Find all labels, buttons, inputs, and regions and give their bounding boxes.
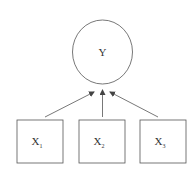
path-diagram: Y X1 X2 X3 [0, 0, 195, 173]
node-y: Y [73, 20, 133, 84]
svg-text:X3: X3 [155, 135, 166, 149]
square-shape [17, 120, 63, 163]
node-x1-label: X [32, 135, 40, 147]
node-x3-label: X [155, 135, 163, 147]
node-x1-subscript: 1 [39, 143, 42, 149]
node-x3: X3 [140, 120, 186, 163]
edges [45, 90, 158, 117]
node-x2-subscript: 2 [101, 143, 104, 149]
svg-text:X2: X2 [94, 135, 105, 149]
node-x2-label: X [94, 135, 102, 147]
square-shape [140, 120, 186, 163]
arrow-x3-to-y [110, 92, 158, 117]
arrow-x1-to-y [45, 92, 94, 117]
node-x1: X1 [17, 120, 63, 163]
node-x3-subscript: 3 [162, 143, 165, 149]
square-shape [79, 120, 125, 163]
node-y-label: Y [99, 46, 107, 58]
svg-text:X1: X1 [32, 135, 43, 149]
node-x2: X2 [79, 120, 125, 163]
